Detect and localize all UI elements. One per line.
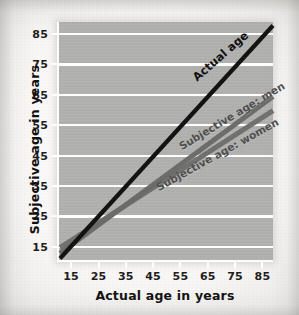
series-line-men xyxy=(60,97,273,254)
series-line-actual xyxy=(60,26,273,259)
x-tick-label-45: 45 xyxy=(145,270,161,283)
x-tick-label-15: 15 xyxy=(63,270,79,283)
x-tick-label-55: 55 xyxy=(173,270,189,283)
x-tick-label-25: 25 xyxy=(91,270,107,283)
x-tick-label-85: 85 xyxy=(255,270,271,283)
chart-plate: 15 25 35 45 55 65 75 85 15 25 35 45 55 6… xyxy=(0,0,299,315)
x-tick-label-35: 35 xyxy=(118,270,134,283)
y-axis-title: Subjective age in years xyxy=(27,30,42,270)
x-tick-label-75: 75 xyxy=(227,270,243,283)
gridlines-horizontal xyxy=(57,34,273,247)
x-axis-title: Actual age in years xyxy=(57,288,273,303)
figure-container: 15 25 35 45 55 65 75 85 15 25 35 45 55 6… xyxy=(0,0,299,315)
x-tick-label-65: 65 xyxy=(200,270,216,283)
